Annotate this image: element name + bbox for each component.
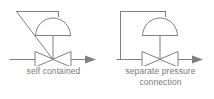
valve-body-left-triangle — [35, 52, 53, 66]
self-contained-regulator-icon — [0, 0, 107, 66]
valve-body-right-triangle — [53, 52, 71, 66]
diaphragm-actuator-dome — [143, 18, 178, 36]
caption-separate-pressure-connection: separate pressure connection — [107, 66, 214, 87]
valve-body-right-triangle — [160, 52, 178, 66]
diagram-canvas: self contained — [0, 0, 214, 99]
flow-direction-arrow — [192, 56, 203, 64]
symbol-self-contained: self contained — [0, 0, 107, 99]
symbol-separate-pressure-connection: separate pressure connection — [107, 0, 214, 99]
valve-body-left-triangle — [142, 52, 160, 66]
separate-pressure-connection-regulator-icon — [107, 0, 214, 66]
diaphragm-actuator-dome — [36, 18, 71, 36]
caption-self-contained: self contained — [0, 66, 107, 77]
flow-direction-arrow — [85, 56, 96, 64]
